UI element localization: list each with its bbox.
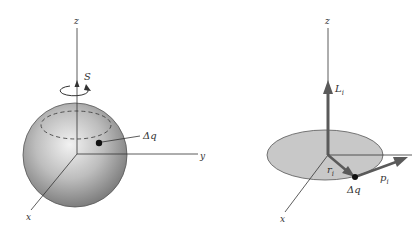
spinning-sphere-figure: z y x S Δq: [0, 0, 210, 240]
angular-momentum-label: Li: [334, 83, 344, 97]
z-axis-label: z: [73, 16, 79, 26]
rotation-arrowhead-icon: [84, 84, 91, 91]
sphere: [23, 103, 127, 207]
orbit-diagram: z x Li ri pi Δq: [210, 0, 417, 240]
x-axis-label: x: [26, 212, 31, 222]
angular-momentum-arrowhead: [323, 80, 333, 94]
spin-arrowhead: [75, 80, 80, 87]
momentum-label: pi: [380, 172, 389, 186]
z-axis-label: z: [324, 16, 330, 26]
angular-momentum-figure: z x Li ri pi Δq: [210, 0, 417, 240]
rotation-arrow-icon: [60, 86, 88, 96]
x-axis-label: x: [280, 214, 285, 224]
charge-label: Δq: [346, 184, 361, 195]
spin-label: S: [84, 71, 91, 82]
charge-dot: [352, 174, 358, 180]
momentum-arrowhead: [393, 157, 408, 167]
charge-dot: [96, 140, 102, 146]
charge-label: Δq: [142, 130, 157, 141]
y-axis-label: y: [199, 151, 206, 161]
sphere-diagram: z y x S Δq: [0, 0, 210, 240]
